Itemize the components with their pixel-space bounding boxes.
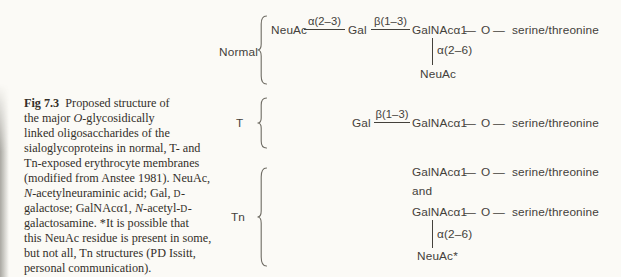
caption-line: the major O-glycosidically — [24, 111, 229, 126]
bond-label-beta-1-3: β(1–3) — [371, 15, 410, 28]
caption-text-segment: N — [24, 186, 32, 200]
brace-normal — [256, 15, 268, 85]
caption-text-segment: - — [181, 186, 185, 200]
caption-line: N-acetylneuraminic acid; Gal, D- — [24, 186, 229, 201]
bond-label-alpha-2-6: α(2–6) — [437, 228, 472, 241]
caption-line: Fig 7.3 Proposed structure of — [24, 96, 229, 111]
bond-beta-1-3: β(1–3) — [374, 108, 410, 123]
caption-text-segment: -acetyl- — [143, 201, 180, 215]
linkage-oxygen: O — [481, 206, 490, 219]
bond-label-beta-1-3: β(1–3) — [374, 108, 410, 121]
brace-tn — [256, 167, 268, 267]
caption-text-segment: sialoglycoproteins in normal, T- and — [24, 141, 200, 155]
branch-bond-line — [432, 220, 433, 248]
section-label-t: T — [236, 117, 243, 130]
caption-text-segment: Proposed structure of — [59, 96, 169, 110]
caption-line: sialoglycoproteins in normal, T- and — [24, 141, 229, 156]
residue-ser-thr: serine/threonine — [512, 166, 599, 179]
residue-galnac: GalNAcα1 — [412, 24, 467, 37]
residue-gal: Gal — [348, 24, 367, 37]
brace-t — [256, 97, 268, 149]
residue-galnac: GalNAcα1 — [412, 206, 467, 219]
caption-text-segment: O — [73, 111, 82, 125]
caption-text-segment: Fig 7.3 — [24, 96, 59, 110]
bond-dash: — — [464, 117, 476, 130]
bond-dash: — — [464, 24, 476, 37]
caption-line: linked oligosaccharides of the — [24, 126, 229, 141]
residue-galnac: GalNAcα1 — [412, 166, 467, 179]
linkage-oxygen: O — [481, 24, 490, 37]
residue-neuac: NeuAc — [271, 24, 307, 37]
bond-label-alpha-2-3: α(2–3) — [304, 15, 345, 28]
bond-dash: — — [493, 24, 505, 37]
caption-text-segment: this NeuAc residue is present in some, — [24, 231, 211, 245]
caption-text-segment: but not all, Tn structures (PD Issitt, — [24, 246, 196, 260]
residue-neuac-branch: NeuAc — [420, 68, 456, 81]
page-edge-shadow — [0, 84, 9, 277]
caption-line: (modified from Anstee 1981). NeuAc, — [24, 171, 229, 186]
bond-label-alpha-2-6: α(2–6) — [437, 44, 472, 57]
residue-neuac-star: NeuAc* — [417, 250, 458, 263]
caption-line: this NeuAc residue is present in some, — [24, 231, 229, 246]
caption-text-segment: - — [188, 201, 192, 215]
residue-ser-thr: serine/threonine — [512, 117, 599, 130]
caption-text-segment: linked oligosaccharides of the — [24, 126, 170, 140]
figure-page: Fig 7.3 Proposed structure ofthe major O… — [0, 0, 621, 277]
linkage-oxygen: O — [481, 117, 490, 130]
section-label-tn: Tn — [231, 211, 245, 224]
caption-text-segment: D — [174, 188, 181, 199]
bond-dash: — — [464, 166, 476, 179]
caption-text-segment: N — [135, 201, 143, 215]
caption-text-segment: galactose; GalNAcα1, — [24, 201, 135, 215]
bond-alpha-2-3: α(2–3) — [304, 15, 345, 30]
caption-text-segment: personal communication). — [24, 261, 151, 275]
bond-dash: — — [493, 166, 505, 179]
bond-dash: — — [464, 206, 476, 219]
figure-caption: Fig 7.3 Proposed structure ofthe major O… — [24, 96, 229, 276]
caption-text-segment: Tn-exposed erythrocyte membranes — [24, 156, 199, 170]
linkage-oxygen: O — [481, 166, 490, 179]
caption-text-segment: galactosamine. *It is possible that — [24, 216, 189, 230]
caption-text-segment: the major — [24, 111, 73, 125]
residue-galnac: GalNAcα1 — [412, 117, 467, 130]
caption-line: galactose; GalNAcα1, N-acetyl-D- — [24, 201, 229, 216]
conjunction-and: and — [412, 185, 432, 198]
caption-line: galactosamine. *It is possible that — [24, 216, 229, 231]
caption-text-segment: -acetylneuraminic acid; Gal, — [32, 186, 173, 200]
bond-beta-1-3: β(1–3) — [371, 15, 410, 30]
caption-line: Tn-exposed erythrocyte membranes — [24, 156, 229, 171]
residue-ser-thr: serine/threonine — [512, 206, 599, 219]
caption-text-segment: -glycosidically — [82, 111, 154, 125]
residue-gal: Gal — [352, 117, 371, 130]
bond-dash: — — [493, 206, 505, 219]
caption-line: personal communication). — [24, 261, 229, 276]
caption-line: but not all, Tn structures (PD Issitt, — [24, 246, 229, 261]
caption-text-segment: D — [180, 203, 187, 214]
caption-text-segment: (modified from Anstee 1981). NeuAc, — [24, 171, 210, 185]
section-label-normal: Normal — [219, 46, 258, 59]
residue-ser-thr: serine/threonine — [512, 24, 599, 37]
branch-bond-line — [432, 38, 433, 65]
bond-dash: — — [493, 117, 505, 130]
